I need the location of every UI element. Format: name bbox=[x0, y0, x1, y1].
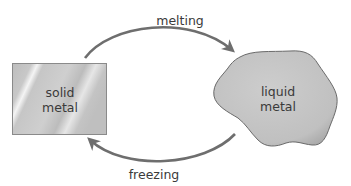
solid-metal-label-line1: solid bbox=[30, 85, 90, 100]
liquid-metal-label-line2: metal bbox=[248, 99, 308, 114]
melting-label: melting bbox=[150, 13, 210, 28]
solid-metal-label-line2: metal bbox=[30, 100, 90, 115]
freezing-arrow bbox=[90, 134, 235, 161]
freezing-label: freezing bbox=[122, 167, 186, 182]
liquid-metal-label-line1: liquid bbox=[248, 84, 308, 99]
phase-change-diagram: melting freezing solid metal liquid meta… bbox=[0, 0, 351, 186]
solid-metal-label: solid metal bbox=[30, 85, 90, 115]
melting-arrow bbox=[85, 27, 232, 58]
liquid-metal-label: liquid metal bbox=[248, 84, 308, 114]
